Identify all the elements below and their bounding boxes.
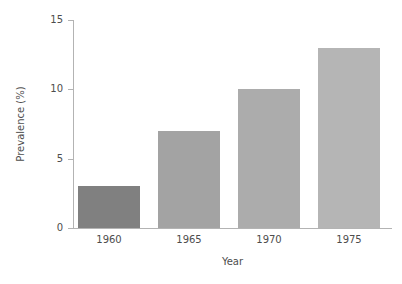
bar-1965	[158, 131, 220, 228]
y-tick-label-0: 0	[57, 223, 63, 233]
x-axis-line	[73, 228, 392, 229]
bar-chart: Prevalence (%) 15 10 5 0 1960 1965 1970 …	[0, 0, 402, 284]
x-tick-label-1960: 1960	[78, 234, 140, 246]
x-tick-label-1970: 1970	[238, 234, 300, 246]
y-tick-label-5: 5	[57, 154, 63, 164]
bar-1975	[318, 48, 380, 228]
y-axis-title: Prevalence (%)	[15, 86, 27, 161]
bar-1970	[238, 89, 300, 228]
y-axis-line	[73, 20, 74, 229]
x-tick-label-1975: 1975	[318, 234, 380, 246]
y-tick-label-15: 15	[50, 15, 63, 25]
y-tick-label-10: 10	[50, 84, 63, 94]
x-tick-label-1965: 1965	[158, 234, 220, 246]
x-axis-title: Year	[73, 256, 392, 268]
bar-1960	[78, 186, 140, 228]
